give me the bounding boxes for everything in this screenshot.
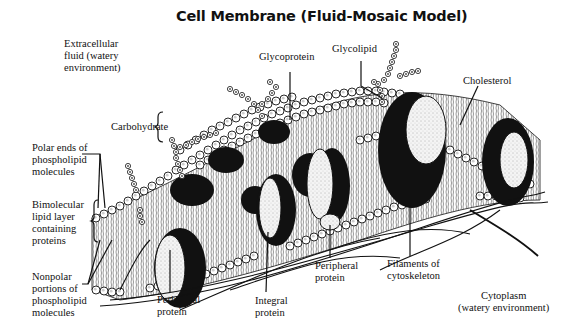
- label-extracellular-fluid: Extracellular fluid (watery environment): [64, 38, 121, 74]
- label-peripheral-protein-mid: Peripheral protein: [315, 260, 358, 284]
- label-glycolipid: Glycolipid: [332, 43, 377, 55]
- label-carbohydrate: Carbohydrate: [111, 121, 168, 133]
- label-cytoskeleton-filaments: Filaments of cytoskeleton: [387, 258, 440, 282]
- label-bimolecular-lipid-layer: Bimolecular lipid layer containing prote…: [32, 199, 84, 247]
- label-polar-ends: Polar ends of phospholipid molecules: [32, 142, 87, 178]
- label-glycoprotein: Glycoprotein: [259, 51, 314, 63]
- label-cytoplasm: Cytoplasm (watery environment): [458, 290, 549, 314]
- label-peripheral-protein-left: Peripheral protein: [157, 294, 200, 318]
- label-integral-protein: Integral protein: [255, 295, 288, 319]
- diagram-title: Cell Membrane (Fluid-Mosaic Model): [176, 8, 467, 24]
- label-cholesterol: Cholesterol: [463, 75, 511, 87]
- cell-membrane-diagram: Cell Membrane (Fluid-Mosaic Model) Extra…: [0, 0, 566, 333]
- label-nonpolar-portions: Nonpolar portions of phospholipid molecu…: [32, 271, 87, 319]
